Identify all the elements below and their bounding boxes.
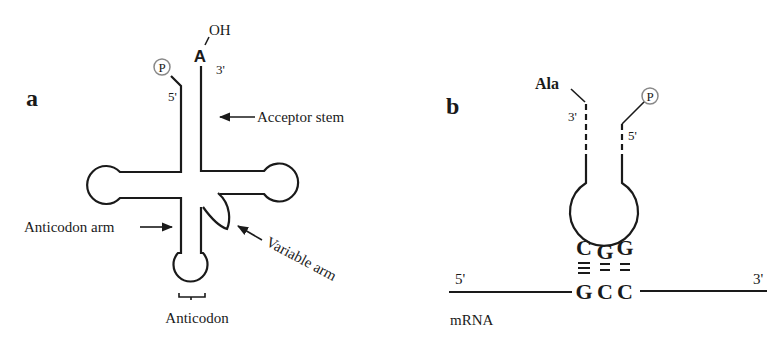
panel-a: a P 5' A OH 3' Anticodon Acceptor stem A…	[24, 22, 344, 326]
mrna-label: mRNA	[450, 312, 494, 328]
panel-a-label: a	[26, 85, 38, 111]
codon-base-2: C	[597, 279, 613, 304]
anticodon-base-2: G	[596, 239, 613, 264]
variable-arm-arrow	[238, 226, 262, 240]
three-prime-label: 3'	[216, 62, 225, 77]
amino-acid-label: Ala	[535, 75, 559, 92]
codon-bases: G C C	[575, 279, 633, 304]
anticodon-arm-label: Anticodon arm	[24, 219, 115, 235]
anticodon-bases: C G G	[576, 235, 634, 264]
phosphate-icon: P	[154, 59, 170, 75]
phosphate-label-b: P	[646, 89, 653, 104]
anticodon-bracket	[179, 293, 205, 300]
variable-arm-loop	[203, 193, 229, 229]
panel-b: b Ala 3' P 5' C G G	[446, 75, 767, 328]
trna-three-prime-label: 3'	[568, 109, 577, 124]
phosphate-icon-b: P	[642, 88, 658, 104]
mrna-three-prime-label: 3'	[753, 271, 764, 287]
anticodon-label: Anticodon	[165, 310, 229, 326]
trna-diagram: a P 5' A OH 3' Anticodon Acceptor stem A…	[0, 0, 782, 345]
trna-cloverleaf-outline	[87, 76, 207, 282]
panel-b-label: b	[446, 93, 459, 119]
hydrogen-bonds	[578, 263, 630, 273]
variable-arm-label: Variable arm	[264, 234, 340, 284]
five-prime-label: 5'	[168, 89, 177, 104]
oh-group-label: OH	[209, 22, 231, 38]
terminal-a-base: A	[194, 47, 206, 66]
mrna-five-prime-label: 5'	[455, 271, 466, 287]
anticodon-base-1: C	[576, 235, 592, 260]
codon-base-3: C	[617, 279, 633, 304]
anticodon-base-3: G	[616, 235, 633, 260]
acceptor-stem-label: Acceptor stem	[257, 109, 344, 125]
phosphate-label: P	[158, 60, 165, 75]
trna-five-prime-label: 5'	[628, 128, 637, 143]
codon-base-1: G	[575, 279, 592, 304]
anticodon-loop	[570, 160, 638, 246]
